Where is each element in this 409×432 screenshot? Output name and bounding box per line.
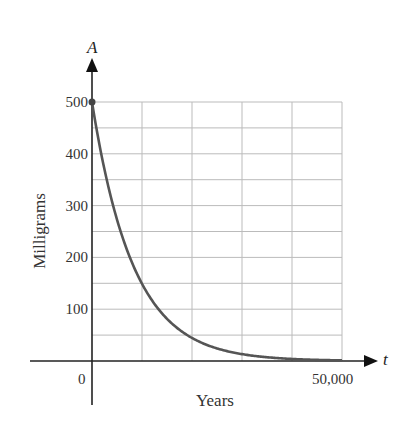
y-axis-arrow-icon <box>86 58 98 72</box>
y-tick-label: 500 <box>66 94 89 110</box>
x-tick-label-0: 0 <box>78 371 86 387</box>
y-tick-label: 400 <box>66 146 89 162</box>
y-tick-label: 300 <box>66 198 89 214</box>
grid-lines <box>92 102 342 361</box>
y-axis-label: Milligrams <box>30 193 49 269</box>
y-axis-variable: A <box>86 38 98 57</box>
x-tick-label-50000: 50,000 <box>312 371 353 387</box>
chart: 100200300400500 0 50,000 Years Milligram… <box>0 0 409 432</box>
y-tick-label: 200 <box>66 249 89 265</box>
x-axis-label: Years <box>196 391 234 410</box>
y-tick-labels: 100200300400500 <box>66 94 89 317</box>
x-axis-variable: t <box>383 350 389 369</box>
y-tick-label: 100 <box>66 301 89 317</box>
initial-point <box>89 99 96 106</box>
x-axis-arrow-icon <box>364 355 378 367</box>
